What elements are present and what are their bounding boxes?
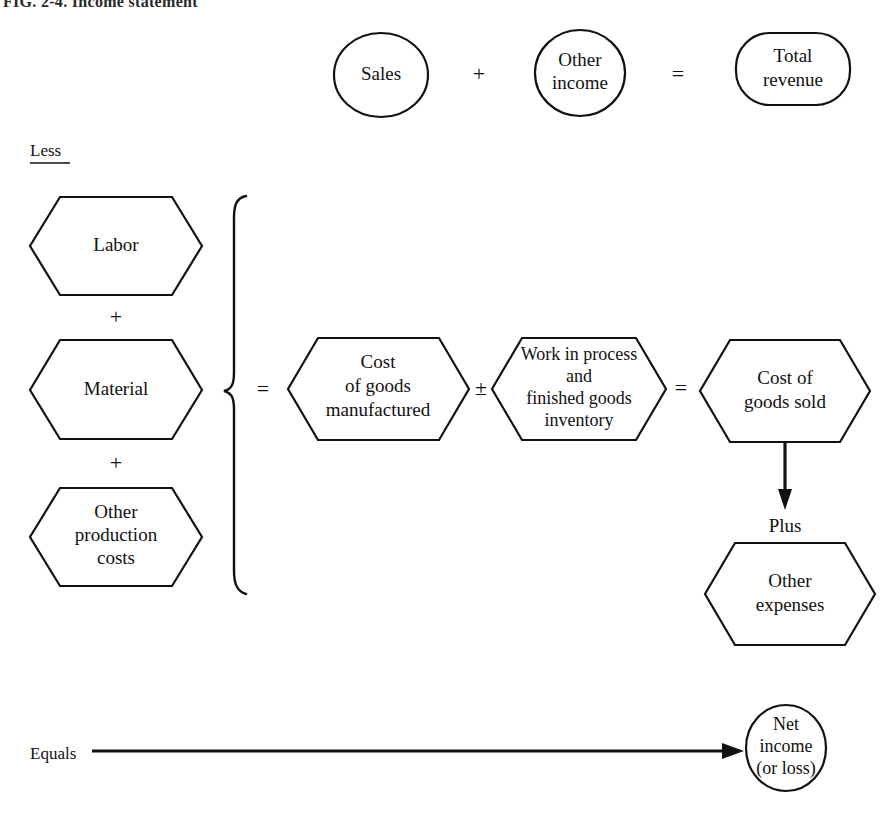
bottom-row: Equals Net income (or loss) — [30, 705, 826, 791]
node-cogm-label-3: manufactured — [326, 399, 431, 420]
node-other-income-label-1: Other — [558, 49, 602, 70]
node-cogm-label-2: of goods — [345, 375, 411, 396]
node-other-production-label-2: production — [75, 524, 158, 545]
node-net-income-label-1: Net — [773, 714, 799, 734]
figure-canvas: FIG. 2-4. Income statement Sales + Other… — [0, 0, 885, 822]
node-wip-label-3: finished goods — [526, 388, 632, 408]
operator-equals-cogs: = — [675, 375, 687, 400]
cogm-row: = Cost of goods manufactured ± Work in p… — [257, 338, 870, 442]
node-labor[interactable]: Labor — [30, 197, 202, 295]
equals-label: Equals — [30, 744, 76, 763]
node-material-label: Material — [84, 378, 148, 399]
node-cogm-label-1: Cost — [361, 351, 397, 372]
node-other-production-label-3: costs — [97, 547, 135, 568]
arrow-cogs-to-other-expenses — [778, 442, 792, 510]
revenue-row: Sales + Other income = Total revenue — [334, 30, 850, 117]
operator-plus-minus: ± — [475, 375, 487, 400]
less-label: Less — [30, 141, 61, 160]
node-other-production-label-1: Other — [94, 501, 138, 522]
node-cost-of-goods-sold[interactable]: Cost of goods sold — [700, 340, 870, 442]
arrow-head-down-icon — [778, 489, 792, 510]
node-cost-of-goods-manufactured[interactable]: Cost of goods manufactured — [288, 338, 469, 440]
node-total-revenue[interactable]: Total revenue — [736, 33, 850, 105]
node-other-income-label-2: income — [552, 72, 608, 93]
node-sales[interactable]: Sales — [334, 33, 428, 117]
node-net-income-label-3: (or loss) — [756, 758, 816, 779]
node-cogs-label-1: Cost of — [757, 367, 813, 388]
node-total-revenue-label-2: revenue — [763, 69, 823, 90]
node-wip-label-1: Work in process — [521, 344, 638, 364]
operator-equals-cogm: = — [257, 376, 269, 401]
node-other-income[interactable]: Other income — [535, 30, 625, 116]
node-wip-label-2: and — [566, 366, 592, 386]
arrow-equals-to-net-income — [92, 743, 744, 759]
node-net-income[interactable]: Net income (or loss) — [746, 705, 826, 791]
node-wip-label-4: inventory — [545, 410, 614, 430]
node-other-expenses-label-1: Other — [768, 570, 812, 591]
node-cogs-label-2: goods sold — [744, 391, 826, 412]
grouping-brace — [224, 196, 246, 594]
cost-inputs-column: Labor + Material + Other production cost… — [30, 197, 202, 586]
node-other-expenses-label-2: expenses — [756, 594, 825, 615]
node-material[interactable]: Material — [30, 340, 202, 439]
operator-equals-revenue: = — [672, 61, 684, 86]
node-sales-label: Sales — [361, 63, 401, 84]
income-statement-diagram: Sales + Other income = Total revenue Les… — [0, 0, 885, 822]
less-label-group: Less — [30, 141, 70, 163]
node-wip-finished-goods-inventory[interactable]: Work in process and finished goods inven… — [492, 338, 666, 440]
node-net-income-label-2: income — [760, 736, 813, 756]
plus-label: Plus — [769, 515, 802, 536]
operator-plus-material-other: + — [110, 450, 122, 475]
operator-plus-labor-material: + — [110, 304, 122, 329]
operator-plus-revenue: + — [473, 61, 485, 86]
arrow-head-right-icon — [722, 743, 744, 759]
node-labor-label: Labor — [93, 234, 139, 255]
node-total-revenue-label-1: Total — [774, 45, 813, 66]
node-other-expenses[interactable]: Other expenses — [705, 543, 875, 645]
node-other-production-costs[interactable]: Other production costs — [30, 488, 202, 586]
